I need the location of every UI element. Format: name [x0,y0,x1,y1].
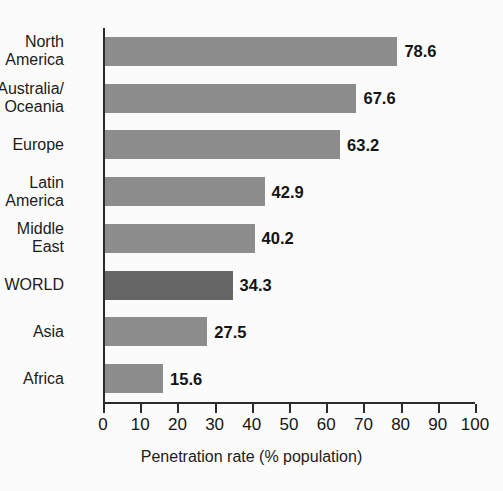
bar-value-label: 15.6 [163,369,202,388]
bar [105,364,163,393]
x-axis-tick-label: 50 [280,415,299,435]
category-label: Middle East [0,220,64,256]
plot-area: 78.6North America67.6Australia/ Oceania6… [103,28,475,402]
bar-value-label: 40.2 [255,229,294,248]
x-axis-tick [177,404,179,413]
x-axis-tick-label: 0 [98,415,107,435]
x-axis-tick-label: 60 [317,415,336,435]
bar-value-label: 63.2 [340,135,379,154]
category-label: Australia/ Oceania [0,80,64,116]
x-axis-tick-label: 80 [391,415,410,435]
category-label: North America [0,33,64,69]
x-axis-tick [363,404,365,413]
x-axis-title: Penetration rate (% population) [0,448,503,466]
x-axis-tick-label: 10 [131,415,150,435]
bar [105,84,356,113]
x-axis-tick-label: 90 [428,415,447,435]
bar [105,130,340,159]
x-axis-tick [103,404,105,413]
x-axis-tick [140,404,142,413]
category-label: Europe [0,136,64,154]
bar-value-label: 67.6 [356,89,395,108]
bar [105,317,207,346]
x-axis-tick [289,404,291,413]
category-label: Latin America [0,174,64,210]
x-axis-tick-label: 20 [168,415,187,435]
x-axis-tick-label: 40 [242,415,261,435]
x-axis-tick [326,404,328,413]
x-axis-tick-label: 100 [461,415,489,435]
bar-value-label: 27.5 [207,322,246,341]
x-axis-tick [252,404,254,413]
bar [105,177,265,206]
x-axis-tick [438,404,440,413]
x-axis-tick [475,404,477,413]
x-axis-tick-label: 70 [354,415,373,435]
bar-chart-figure: 78.6North America67.6Australia/ Oceania6… [0,0,503,491]
bar [105,271,233,300]
bar-value-label: 34.3 [233,276,272,295]
x-axis-tick-label: 30 [205,415,224,435]
category-label: Africa [0,370,64,388]
category-label: WORLD [0,276,64,294]
bar-value-label: 42.9 [265,182,304,201]
bar [105,37,397,66]
bar [105,224,255,253]
chart-title [0,0,503,1]
x-axis-tick [215,404,217,413]
x-axis-tick [401,404,403,413]
category-label: Asia [0,323,64,341]
bar-value-label: 78.6 [397,42,436,61]
